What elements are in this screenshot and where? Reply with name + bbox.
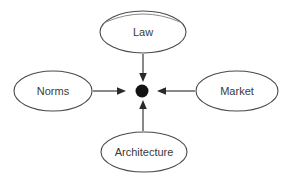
node-architecture[interactable]: Architecture — [101, 132, 187, 172]
arrow-law-head — [139, 73, 147, 82]
node-norms-label: Norms — [37, 85, 70, 97]
diagram-canvas: Law Norms Market Architecture — [0, 0, 287, 179]
arrow-norms-to-dot — [93, 87, 126, 95]
arrow-market-head — [157, 87, 166, 95]
arrow-law-to-dot — [139, 54, 147, 82]
arrow-norms-head — [117, 87, 126, 95]
regulation-diagram: Law Norms Market Architecture — [0, 0, 287, 179]
arrow-architecture-to-dot — [139, 100, 147, 131]
node-law[interactable]: Law — [100, 11, 186, 53]
arrow-architecture-head — [139, 100, 147, 109]
center-dot — [136, 85, 149, 98]
node-norms[interactable]: Norms — [14, 71, 92, 111]
node-architecture-label: Architecture — [115, 146, 174, 158]
node-law-label: Law — [133, 26, 153, 38]
node-market-label: Market — [220, 85, 254, 97]
arrow-market-to-dot — [157, 87, 195, 95]
node-market[interactable]: Market — [196, 71, 278, 111]
